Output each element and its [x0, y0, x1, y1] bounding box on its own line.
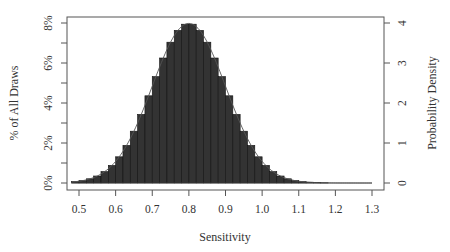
y-axis-right: 01234	[384, 20, 408, 186]
x-tick-label: 0.8	[182, 203, 197, 215]
histogram-bar	[182, 24, 189, 183]
y-axis-title-left: % of All Draws	[7, 65, 21, 140]
histogram-bar	[123, 145, 130, 183]
x-tick-label: 0.6	[108, 203, 123, 215]
x-tick-label: 1.2	[328, 203, 343, 215]
histogram-bar	[167, 42, 174, 183]
histogram-bar	[138, 114, 145, 183]
x-tick-label: 1.0	[255, 203, 270, 215]
y-tick-label: 0%	[42, 175, 54, 191]
x-tick-label: 0.7	[145, 203, 160, 215]
x-axis-title: Sensitivity	[199, 230, 250, 244]
y-tick-label: 2%	[42, 135, 54, 151]
histogram-bar	[160, 58, 167, 183]
x-tick-label: 0.5	[72, 203, 87, 215]
x-tick-label: 0.9	[218, 203, 233, 215]
histogram-chart: 0.50.60.70.80.91.01.11.21.3 0%2%4%6%8% 0…	[0, 0, 450, 252]
histogram-bar	[204, 42, 211, 183]
x-axis: 0.50.60.70.80.91.01.11.21.3	[72, 190, 380, 215]
y-tick-label: 8%	[42, 15, 54, 31]
histogram-bar	[218, 77, 225, 183]
x-tick-label: 1.3	[365, 203, 380, 215]
y-right-tick-label: 1	[396, 140, 408, 146]
histogram-bar	[152, 77, 159, 183]
histogram-bar	[130, 131, 137, 183]
histogram-bar	[233, 114, 240, 183]
histogram-bar	[174, 30, 181, 183]
y-tick-label: 4%	[42, 95, 54, 111]
histogram-bar	[211, 58, 218, 183]
y-right-tick-label: 4	[396, 20, 408, 26]
y-axis-left: 0%2%4%6%8%	[42, 15, 67, 191]
histogram-bar	[145, 96, 152, 183]
histogram-bar	[189, 24, 196, 183]
histogram-bar	[226, 96, 233, 183]
y-right-tick-label: 3	[396, 60, 408, 66]
histogram-bar	[240, 131, 247, 183]
y-tick-label: 6%	[42, 55, 54, 71]
x-tick-label: 1.1	[292, 203, 307, 215]
histogram-bars	[72, 24, 328, 183]
y-right-tick-label: 2	[396, 100, 408, 106]
y-axis-title-right: Probability Density	[425, 56, 439, 150]
y-right-tick-label: 0	[396, 180, 408, 186]
histogram-bar	[196, 30, 203, 183]
histogram-bar	[247, 145, 254, 183]
